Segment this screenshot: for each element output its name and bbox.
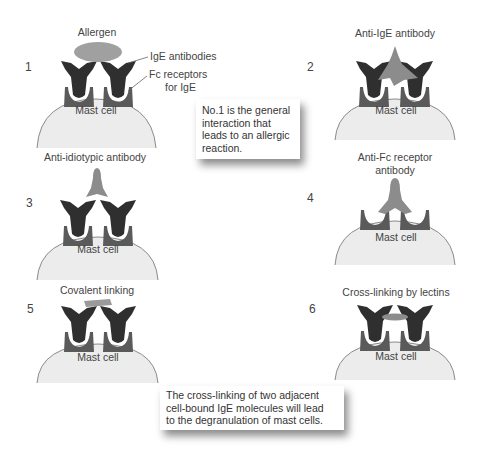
mast-cell-label-3: Mast cell	[77, 243, 118, 255]
panel-2-title: Anti-IgE antibody	[355, 27, 435, 39]
panel-1-title: Allergen	[78, 26, 117, 38]
callout-ige-antibodies: IgE antibodies	[150, 50, 217, 62]
panel-5-title: Covalent linking	[60, 284, 134, 296]
panel-5	[37, 299, 158, 383]
note-cross-linking: The cross-linking of two adjacent cell-b…	[160, 386, 344, 430]
mast-cell-label-2: Mast cell	[375, 104, 416, 116]
mast-cell-label-1: Mast cell	[75, 104, 116, 116]
mast-cell-label-4: Mast cell	[375, 231, 416, 243]
note-line: interaction that	[202, 117, 294, 130]
anti-fc-receptor-antibody-icon	[378, 178, 412, 214]
note-line: leads to an allergic	[202, 129, 294, 142]
panel-6-title: Cross-linking by lectins	[342, 286, 449, 298]
mast-cell-4	[335, 221, 455, 265]
callout-line	[128, 57, 148, 63]
note-line: No.1 is the general	[202, 104, 294, 117]
note-line: cell-bound IgE molecules will lead	[166, 402, 338, 415]
panel-number-3: 3	[26, 196, 33, 210]
panel-number-6: 6	[309, 302, 316, 316]
panel-1	[37, 42, 156, 148]
mast-cell-label-6: Mast cell	[375, 350, 416, 362]
allergen-icon	[74, 42, 122, 62]
mast-cell-5	[37, 344, 158, 383]
covalent-link-icon	[84, 299, 112, 307]
panel-number-5: 5	[27, 302, 34, 316]
panel-number-2: 2	[307, 60, 314, 74]
panel-3	[37, 168, 158, 280]
callout-for-ige: for IgE	[165, 81, 196, 93]
panel-4	[335, 178, 455, 265]
lectin-icon	[382, 314, 408, 321]
panel-2	[335, 46, 455, 140]
note-general-interaction: No.1 is the general interaction that lea…	[196, 99, 300, 159]
note-line: to the degranulation of mast cells.	[166, 414, 338, 427]
note-line: reaction.	[202, 142, 294, 155]
panel-number-4: 4	[307, 191, 314, 205]
mast-cell-label-5: Mast cell	[77, 351, 118, 363]
panel-3-title: Anti-idiotypic antibody	[44, 151, 146, 163]
callout-fc-receptors: Fc receptors	[149, 68, 207, 80]
callout-line	[128, 76, 147, 91]
note-line: The cross-linking of two adjacent	[166, 389, 338, 402]
anti-idiotypic-antibody-icon	[86, 168, 108, 197]
panel-4-title: Anti-Fc receptor	[358, 151, 433, 163]
panel-4-title-line2: antibody	[375, 164, 415, 176]
panel-number-1: 1	[25, 60, 32, 74]
panel-6	[335, 305, 455, 380]
